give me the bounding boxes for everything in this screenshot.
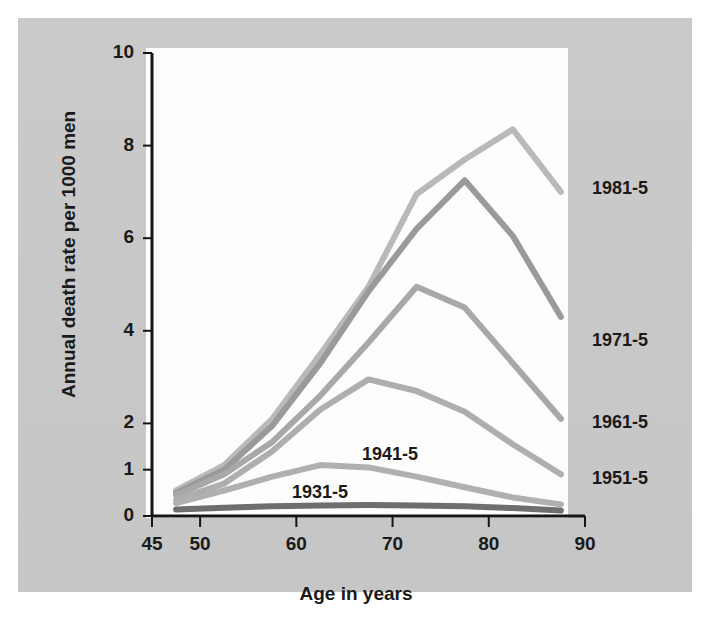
series-line-1931-5	[176, 505, 561, 511]
x-axis-title: Age in years	[226, 583, 486, 605]
y-tick-label: 1	[100, 458, 134, 480]
x-tick-label: 70	[371, 533, 415, 555]
figure-container: 01246810 455060708090 1981-51971-51961-5…	[0, 0, 710, 627]
series-label-1951-5: 1951-5	[592, 468, 648, 489]
series-label-1961-5: 1961-5	[592, 412, 648, 433]
x-tick-label: 60	[274, 533, 318, 555]
series-label-1931-5: 1931-5	[292, 482, 348, 503]
x-tick-label: 90	[563, 533, 607, 555]
x-tick-label: 45	[130, 533, 174, 555]
x-tick-label: 80	[467, 533, 511, 555]
y-tick-label: 4	[100, 319, 134, 341]
y-axis-title: Annual death rate per 1000 men	[58, 168, 80, 398]
y-tick-label: 6	[100, 226, 134, 248]
x-tick-label: 50	[178, 533, 222, 555]
y-tick-label: 0	[100, 504, 134, 526]
y-tick-label: 10	[100, 41, 134, 63]
y-tick-label: 8	[100, 134, 134, 156]
series-line-1951-5	[176, 379, 561, 499]
series-label-1971-5: 1971-5	[592, 330, 648, 351]
y-tick-label: 2	[100, 411, 134, 433]
series-label-1981-5: 1981-5	[592, 178, 648, 199]
series-label-1941-5: 1941-5	[362, 444, 418, 465]
